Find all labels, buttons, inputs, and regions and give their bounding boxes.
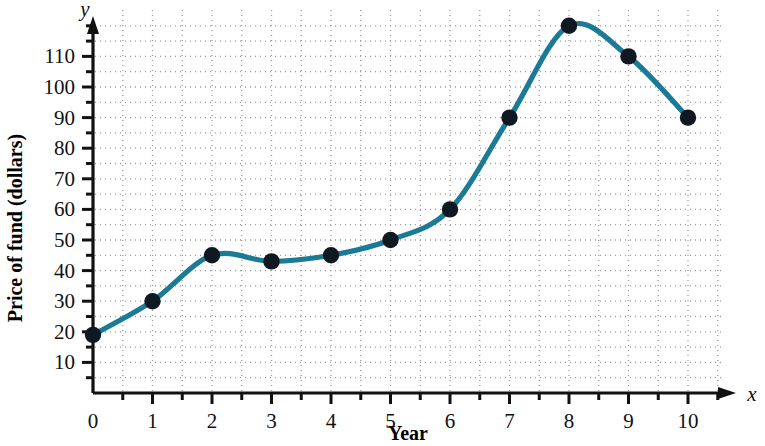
- price-of-fund-line-chart: 102030405060708090100110 012345678910 y …: [0, 0, 765, 446]
- x-axis-tick-label: 7: [504, 409, 515, 433]
- y-axis-tick-label: 100: [44, 75, 76, 99]
- data-point-marker: [204, 247, 220, 263]
- data-point-marker: [680, 109, 696, 125]
- y-axis-tick-label: 80: [54, 136, 75, 160]
- y-axis-tick-label: 110: [44, 44, 75, 68]
- data-point-marker: [144, 293, 160, 309]
- data-point-marker: [85, 327, 101, 343]
- y-axis-tick-label: 90: [54, 106, 75, 130]
- x-axis-tick-label: 8: [564, 409, 575, 433]
- axes-group: [87, 16, 736, 399]
- x-axis-tick-label: 9: [623, 409, 634, 433]
- x-axis-tick-label: 1: [147, 409, 158, 433]
- y-axis-tick-label: 50: [54, 228, 75, 252]
- y-axis-tick-label: 30: [54, 289, 75, 313]
- y-axis-tick-label: 70: [54, 167, 75, 191]
- y-axis-title: Price of fund (dollars): [4, 134, 27, 322]
- x-axis-variable-label: x: [746, 382, 757, 406]
- x-axis-tick-label: 2: [207, 409, 218, 433]
- data-point-marker: [442, 201, 458, 217]
- x-axis-tick-label: 6: [445, 409, 456, 433]
- y-axis-tick-label: 60: [54, 197, 75, 221]
- y-axis-tick-label: 10: [54, 350, 75, 374]
- vertical-gridlines: [123, 7, 718, 391]
- y-axis-tick-labels: 102030405060708090100110: [44, 44, 76, 374]
- x-axis-tick-label: 10: [678, 409, 699, 433]
- data-point-marker: [263, 253, 279, 269]
- data-point-marker: [501, 109, 517, 125]
- y-axis-ticks: [82, 26, 93, 378]
- data-point-marker: [620, 48, 636, 64]
- horizontal-gridlines: [95, 26, 724, 378]
- x-axis-tick-label: 4: [326, 409, 337, 433]
- data-point-marker: [561, 18, 577, 34]
- data-point-marker: [382, 232, 398, 248]
- x-axis-tick-label: 0: [88, 409, 99, 433]
- data-point-marker: [323, 247, 339, 263]
- y-axis-tick-label: 20: [54, 320, 75, 344]
- x-axis-arrowhead: [718, 387, 736, 399]
- x-axis-title: Year: [388, 422, 428, 444]
- x-axis-ticks: [123, 393, 718, 404]
- y-axis-tick-label: 40: [54, 259, 75, 283]
- x-axis-tick-label: 3: [266, 409, 277, 433]
- y-axis-variable-label: y: [78, 0, 90, 21]
- chart-canvas: 102030405060708090100110 012345678910 y …: [0, 0, 765, 446]
